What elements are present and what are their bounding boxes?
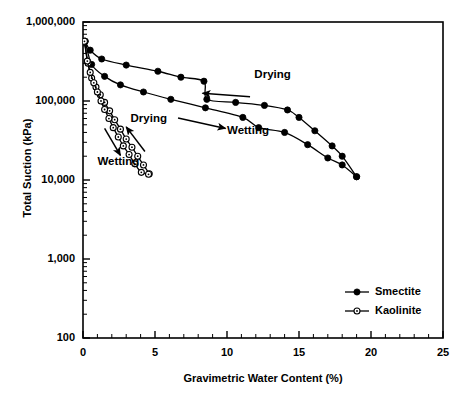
data-point-center [131, 146, 133, 148]
annotation-arrow [203, 93, 251, 96]
data-point [325, 155, 331, 161]
data-point-center [117, 136, 119, 138]
data-point-center [140, 171, 142, 173]
y-tick-label: 100 [5, 331, 75, 343]
data-point-center [148, 173, 150, 175]
annotation-label-wetting-3: Wetting [97, 155, 139, 167]
data-point [339, 162, 345, 168]
chart-figure: 1001,00010,000100,0001,000,0000510152025… [0, 0, 460, 398]
data-point [284, 107, 290, 113]
data-point-center [125, 138, 127, 140]
y-axis-title: Total Suction (kPa) [21, 103, 33, 233]
data-point-center [112, 127, 114, 129]
annotation-arrow [178, 118, 226, 128]
data-point [233, 99, 239, 105]
x-tick-label: 10 [207, 346, 247, 358]
legend [345, 289, 369, 314]
x-tick-label: 15 [279, 346, 319, 358]
data-point-center [89, 72, 91, 74]
legend-label-smectite: Smectite [375, 285, 421, 297]
x-axis-title: Gravimetric Water Content (%) [83, 372, 443, 384]
annotation-label-drying-2: Drying [131, 112, 167, 124]
data-point-center [93, 82, 95, 84]
data-point-center [104, 109, 106, 111]
data-point [201, 78, 207, 84]
y-tick-label: 1,000 [5, 252, 75, 264]
data-point [102, 73, 108, 79]
data-point [329, 143, 335, 149]
annotation-label-wetting-1: Wetting [227, 124, 269, 136]
x-axis-ticks [83, 331, 443, 338]
data-point [123, 62, 129, 68]
data-point [282, 129, 288, 135]
data-point [312, 128, 318, 134]
data-point [305, 142, 311, 148]
data-point [339, 153, 345, 159]
x-tick-label: 5 [135, 346, 175, 358]
data-point-center [97, 91, 99, 93]
data-point [140, 89, 146, 95]
data-point-center [122, 145, 124, 147]
x-tick-label: 0 [63, 346, 103, 358]
data-point [168, 96, 174, 102]
legend-label-kaolinite: Kaolinite [375, 304, 421, 316]
y-tick-label: 100,000 [5, 94, 75, 106]
data-point [354, 174, 360, 180]
data-point [202, 105, 208, 111]
y-tick-label: 10,000 [5, 173, 75, 185]
data-point [99, 56, 105, 62]
legend-marker-center [356, 310, 358, 312]
data-point [204, 96, 210, 102]
data-point-center [84, 40, 86, 42]
legend-marker-smectite [354, 289, 360, 295]
data-point [155, 68, 161, 74]
data-point [240, 114, 246, 120]
data-point [117, 82, 123, 88]
data-point-center [108, 118, 110, 120]
x-tick-label: 25 [423, 346, 460, 358]
y-tick-label: 1,000,000 [5, 15, 75, 27]
data-point-center [114, 119, 116, 121]
data-point [178, 74, 184, 80]
data-point [296, 114, 302, 120]
annotation-arrow [105, 128, 121, 155]
data-point-center [120, 128, 122, 130]
x-tick-label: 20 [351, 346, 391, 358]
data-point [261, 102, 267, 108]
data-point-center [109, 110, 111, 112]
data-point-center [100, 100, 102, 102]
data-point-center [86, 60, 88, 62]
data-point-center [143, 164, 145, 166]
annotation-label-drying-0: Drying [254, 68, 290, 80]
